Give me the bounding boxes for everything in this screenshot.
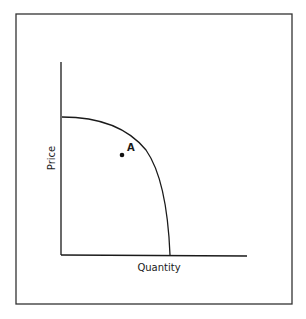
x-axis [61,255,247,256]
y-axis-label: Price [46,146,57,170]
point-a-marker [120,153,125,158]
x-axis-label: Quantity [137,262,180,273]
figure-frame [16,14,292,304]
diagram-canvas: A Price Quantity [0,0,306,319]
curve [62,117,170,255]
point-a-label: A [127,142,135,153]
